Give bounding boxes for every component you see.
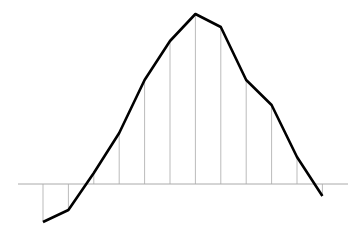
- data-line: [43, 14, 322, 222]
- line-chart: [0, 0, 359, 235]
- drop-lines: [43, 14, 322, 222]
